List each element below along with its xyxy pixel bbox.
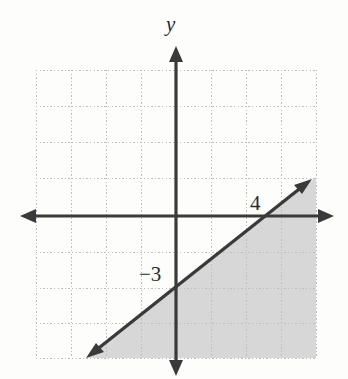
x-intercept-label: 4 bbox=[250, 193, 261, 214]
graph-figure: y 4 −3 bbox=[0, 0, 348, 379]
x-axis-left-arrowhead bbox=[20, 209, 36, 223]
y-axis-label: y bbox=[166, 14, 175, 35]
y-axis-top-arrowhead bbox=[169, 46, 183, 62]
y-intercept-label: −3 bbox=[139, 264, 161, 285]
y-axis-bottom-arrowhead bbox=[169, 360, 183, 376]
x-axis-right-arrowhead bbox=[318, 209, 334, 223]
coordinate-plane-svg bbox=[0, 0, 348, 379]
